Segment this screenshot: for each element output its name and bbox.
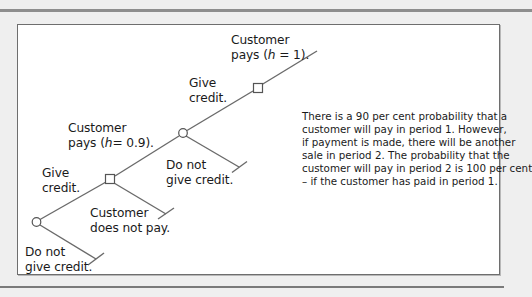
chance-node-1 [106,175,115,184]
bottom-rule [0,286,504,288]
label-line: Do not [166,158,233,173]
note-line: – if the customer has paid in period 1. [302,175,532,188]
label-give-credit-1: Give credit. [42,166,80,196]
label-line: Give [42,166,80,181]
label-text: pays ( [231,48,268,62]
explanation-note: There is a 90 per cent probability that … [302,110,532,188]
terminal-tick-3 [232,162,247,173]
note-line: customer will pay in period 1. However, [302,123,532,136]
label-line: Give [189,76,227,91]
label-line: Do not [25,245,92,260]
note-line: sale in period 2. The probability that t… [302,149,532,162]
label-text: pays ( [68,136,105,150]
label-line: does not pay. [90,221,170,236]
label-no-credit-2: Do not give credit. [166,158,233,188]
label-line: pays (h= 0.9). [68,136,154,151]
label-text: = 0.9). [112,136,153,150]
chance-node-2 [254,84,263,93]
label-line: give credit. [25,260,92,275]
label-no-credit-1: Do not give credit. [25,245,92,275]
decision-node-2 [179,129,188,138]
label-line: credit. [189,91,227,106]
label-line: credit. [42,181,80,196]
note-line: There is a 90 per cent probability that … [302,110,532,123]
label-customer-pays-1: Customer pays (h= 0.9). [68,121,154,151]
label-line: Customer [90,206,170,221]
label-customer-pays-2: Customer pays (h = 1). [231,33,309,63]
label-text: = 1). [275,48,309,62]
decision-node-1 [32,218,41,227]
label-line: Customer [68,121,154,136]
note-line: if payment is made, there will be anothe… [302,136,532,149]
label-line: give credit. [166,173,233,188]
label-line: Customer [231,33,309,48]
label-customer-not-pay: Customer does not pay. [90,206,170,236]
note-line: customer will pay in period 2 is 100 per… [302,162,532,175]
label-give-credit-2: Give credit. [189,76,227,106]
label-line: pays (h = 1). [231,48,309,63]
